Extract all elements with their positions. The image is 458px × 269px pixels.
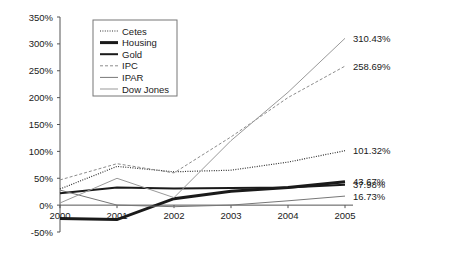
y-tick-label: 200%	[29, 92, 54, 103]
end-value-label-dow-jones: 310.43%	[353, 33, 391, 44]
x-tick-label: 2004	[277, 210, 298, 221]
x-tick-label: 2005	[334, 210, 355, 221]
end-value-label-ipc: 258.69%	[353, 61, 391, 72]
chart-canvas: 350%300%250%200%150%100%50%0%-50%2000200…	[0, 0, 458, 269]
legend-label-cetes: Cetes	[122, 26, 147, 37]
y-tick-label: 0%	[39, 200, 53, 211]
y-tick-label: 50%	[34, 173, 54, 184]
legend-label-dow-jones: Dow Jones	[122, 84, 169, 95]
y-tick-label: 300%	[29, 38, 54, 49]
x-tick-label: 2002	[163, 210, 184, 221]
series-line-cetes	[60, 151, 345, 189]
end-value-label-cetes: 101.32%	[353, 145, 391, 156]
y-tick-label: -50%	[31, 227, 54, 238]
end-value-label-gold: 37.98%	[353, 179, 386, 190]
legend-label-housing: Housing	[122, 37, 157, 48]
line-chart: 350%300%250%200%150%100%50%0%-50%2000200…	[0, 0, 458, 269]
end-value-label-ipar: 16.73%	[353, 191, 386, 202]
x-tick-label: 2003	[220, 210, 241, 221]
y-tick-label: 150%	[29, 119, 54, 130]
legend-label-ipar: IPAR	[122, 72, 144, 83]
legend-label-gold: Gold	[122, 49, 142, 60]
y-tick-label: 100%	[29, 146, 54, 157]
y-tick-label: 250%	[29, 65, 54, 76]
series-line-ipar	[60, 190, 345, 207]
legend-label-ipc: IPC	[122, 60, 138, 71]
series-line-gold	[60, 185, 345, 194]
y-tick-label: 350%	[29, 12, 54, 23]
